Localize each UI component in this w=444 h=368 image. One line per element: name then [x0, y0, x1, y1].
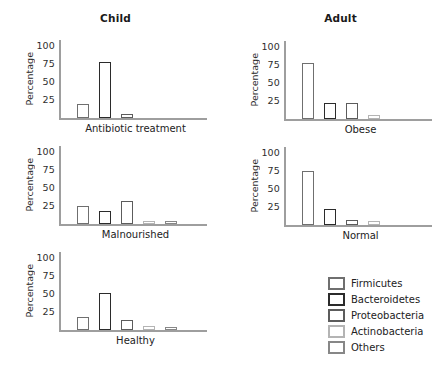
legend-swatch-icon: [328, 341, 345, 354]
plot-area: [59, 252, 207, 332]
bar-firmicutes: [302, 171, 314, 225]
y-tick-label: 75: [268, 166, 280, 176]
y-tick-label: 25: [268, 96, 280, 106]
y-tick-label: 75: [43, 271, 55, 281]
plot-area: [59, 40, 207, 120]
subplot-malnourished: Percentage 255075100 Malnourished: [24, 146, 207, 240]
legend-label: Bacteroidetes: [351, 294, 420, 305]
bar-bacteroidetes: [99, 62, 111, 118]
y-tick-label: 100: [262, 148, 280, 158]
y-tick-label: 100: [37, 41, 55, 51]
legend-swatch-icon: [328, 309, 345, 322]
y-axis-ticks: 255075100: [35, 40, 59, 118]
legend-item-proteobacteria: Proteobacteria: [328, 307, 424, 323]
bar-bacteroidetes: [99, 211, 111, 224]
bar-actinobacteria: [368, 221, 380, 225]
y-axis-title: Percentage: [249, 147, 260, 225]
bar-firmicutes: [77, 317, 89, 330]
y-tick-label: 50: [43, 183, 55, 193]
legend-item-firmicutes: Firmicutes: [328, 275, 424, 291]
plot-area: [284, 41, 432, 121]
plot-area: [59, 146, 207, 226]
y-tick-label: 100: [37, 147, 55, 157]
bar-bacteroidetes: [324, 103, 336, 119]
bar-actinobacteria: [143, 221, 155, 224]
y-axis-ticks: 255075100: [260, 41, 284, 119]
y-tick-label: 100: [262, 42, 280, 52]
legend-swatch-icon: [328, 277, 345, 290]
bar-bacteroidetes: [99, 293, 111, 330]
y-tick-label: 75: [43, 59, 55, 69]
x-axis-title: Normal: [289, 230, 432, 241]
x-axis-title: Obese: [289, 124, 432, 135]
y-tick-label: 25: [43, 201, 55, 211]
legend-swatch-icon: [328, 325, 345, 338]
y-axis-ticks: 255075100: [35, 146, 59, 224]
x-axis-title: Malnourished: [64, 229, 207, 240]
y-tick-label: 25: [43, 95, 55, 105]
bar-firmicutes: [302, 63, 314, 119]
legend-label: Others: [351, 342, 385, 353]
bar-actinobacteria: [368, 115, 380, 119]
x-axis-title: Healthy: [64, 335, 207, 346]
y-tick-label: 50: [268, 184, 280, 194]
bacteria-percentage-figure: Child Adult Percentage 255075100 Antibio…: [0, 0, 444, 368]
x-axis-title: Antibiotic treatment: [64, 123, 207, 134]
legend-item-actinobacteria: Actinobacteria: [328, 323, 424, 339]
subplot-obese: Percentage 255075100 Obese: [249, 41, 432, 135]
y-axis-title: Percentage: [24, 40, 35, 118]
bar-bacteroidetes: [324, 209, 336, 225]
bar-proteobacteria: [121, 114, 133, 118]
legend-label: Proteobacteria: [351, 310, 424, 321]
y-tick-label: 75: [43, 165, 55, 175]
bar-firmicutes: [77, 206, 89, 224]
legend: FirmicutesBacteroidetesProteobacteriaAct…: [328, 275, 424, 355]
column-title-child: Child: [24, 12, 207, 24]
y-axis-title: Percentage: [24, 252, 35, 330]
plot-area: [284, 147, 432, 227]
subplot-normal: Percentage 255075100 Normal: [249, 147, 432, 241]
subplot-healthy: Percentage 255075100 Healthy: [24, 252, 207, 346]
bar-proteobacteria: [346, 103, 358, 119]
bar-firmicutes: [77, 104, 89, 118]
y-tick-label: 75: [268, 60, 280, 70]
y-tick-label: 100: [37, 253, 55, 263]
y-tick-label: 50: [43, 77, 55, 87]
bar-proteobacteria: [346, 220, 358, 225]
y-axis-ticks: 255075100: [260, 147, 284, 225]
legend-label: Actinobacteria: [351, 326, 423, 337]
bar-others: [165, 221, 177, 224]
subplot-antibiotic-treatment: Percentage 255075100 Antibiotic treatmen…: [24, 40, 207, 134]
bar-proteobacteria: [121, 201, 133, 224]
y-tick-label: 50: [268, 78, 280, 88]
bar-others: [165, 327, 177, 330]
y-tick-label: 50: [43, 289, 55, 299]
y-axis-title: Percentage: [24, 146, 35, 224]
y-axis-title: Percentage: [249, 41, 260, 119]
column-title-adult: Adult: [249, 12, 432, 24]
bar-actinobacteria: [143, 326, 155, 330]
y-tick-label: 25: [43, 307, 55, 317]
legend-label: Firmicutes: [351, 278, 402, 289]
y-tick-label: 25: [268, 202, 280, 212]
legend-item-others: Others: [328, 339, 424, 355]
legend-item-bacteroidetes: Bacteroidetes: [328, 291, 424, 307]
legend-swatch-icon: [328, 293, 345, 306]
bar-proteobacteria: [121, 320, 133, 330]
y-axis-ticks: 255075100: [35, 252, 59, 330]
